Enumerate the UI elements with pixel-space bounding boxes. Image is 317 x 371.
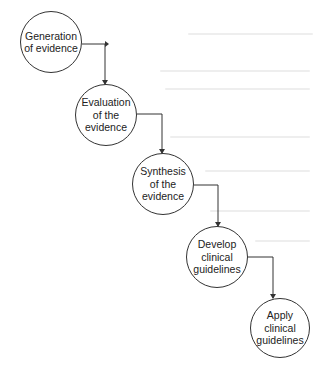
node-evaluation-of-evidence: Evaluation of the evidence	[75, 84, 137, 146]
node-label: Evaluation of the evidence	[81, 96, 130, 134]
flow-diagram: Generation of evidence Evaluation of the…	[0, 0, 317, 371]
node-generation-of-evidence: Generation of evidence	[20, 11, 82, 73]
node-apply-clinical-guidelines: Apply clinical guidelines	[250, 298, 310, 358]
node-label: Develop clinical guidelines	[193, 238, 240, 276]
node-label: Generation of evidence	[24, 30, 78, 55]
arrow-n2-n3	[137, 114, 162, 153]
node-develop-clinical-guidelines: Develop clinical guidelines	[186, 226, 248, 288]
node-label: Synthesis of the evidence	[140, 165, 186, 203]
arrow-n1-n2	[82, 44, 105, 84]
arrow-n4-n5	[248, 257, 273, 298]
node-synthesis-of-evidence: Synthesis of the evidence	[132, 153, 194, 215]
node-label: Apply clinical guidelines	[256, 309, 303, 347]
arrow-n3-n4	[194, 185, 218, 226]
